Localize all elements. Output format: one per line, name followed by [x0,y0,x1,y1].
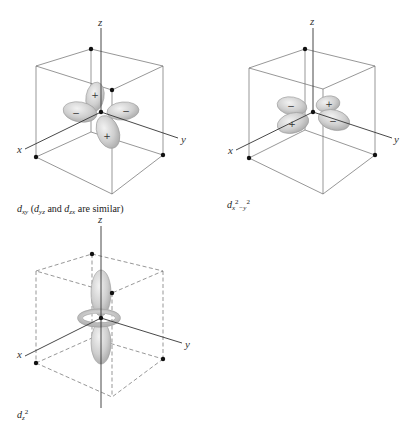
sign-label: + [103,131,111,141]
orbital-superscript: 2 [25,408,29,416]
x-axis [25,318,101,356]
panel-dxy: + − − + z x y [16,16,186,194]
orbital-subscript: yz [39,208,45,216]
caption-dxy: dxy (dyz and dzx are similar) [17,203,124,216]
coordinate-axes [236,28,392,150]
sign-label: + [288,119,296,129]
panel-dx2-y2: − + + − z x y [227,15,399,194]
y-axis-label: y [180,133,186,145]
x-axis-label: x [227,144,233,156]
caption-text: and [47,203,61,214]
orbital-figure: + − − + z x y [0,0,414,436]
sign-label: − [287,101,295,111]
sign-label: − [72,108,80,118]
panel-dz2: z x y [16,213,190,408]
orbital-subscript: xy [22,208,28,216]
caption-dx2-y2: dx2−y2 [227,198,250,212]
vertex-dots [247,47,377,160]
sign-label: − [122,106,130,116]
z-axis-label: z [309,15,315,27]
caption-text: are similar) [78,203,124,214]
orbital-superscript: 2 [246,198,250,206]
x-axis [25,112,101,149]
sign-label: − [329,116,337,126]
y-axis-label: y [184,338,190,350]
cube-wireframe [249,49,375,194]
x-axis-label: x [16,348,22,360]
orbital-subscript: zx [69,208,75,216]
y-axis-label: y [393,133,399,145]
y-axis [101,318,182,343]
x-axis [236,112,313,150]
sign-label: + [325,99,333,109]
coordinate-axes [25,226,182,408]
caption-dz2: dz2 [17,408,28,422]
z-axis-label: z [97,16,103,28]
x-axis-label: x [16,143,22,155]
sign-label: + [91,90,99,100]
